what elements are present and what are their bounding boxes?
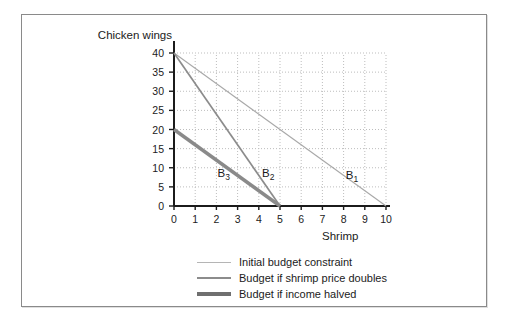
y-tick-label: 25 xyxy=(140,104,164,116)
x-tick-label: 9 xyxy=(355,213,375,225)
x-tick-label: 8 xyxy=(334,213,354,225)
legend-label: Budget if income halved xyxy=(239,288,356,300)
y-tick-label: 0 xyxy=(140,200,164,212)
x-tick-label: 10 xyxy=(376,213,396,225)
y-tick-label: 15 xyxy=(140,143,164,155)
x-axis-title: Shrimp xyxy=(322,230,402,243)
curve-label-subscript: 2 xyxy=(270,172,275,182)
legend-item: Budget if income halved xyxy=(197,287,387,301)
curve-label-b1: B1 xyxy=(346,169,358,181)
x-tick-label: 6 xyxy=(291,213,311,225)
x-tick-label: 4 xyxy=(249,213,269,225)
curve-label-subscript: 1 xyxy=(353,174,358,184)
y-tick-label: 40 xyxy=(140,47,164,59)
figure-frame: Chicken wings Shrimp 0123456789100510152… xyxy=(21,14,487,307)
legend-swatch-line-icon xyxy=(197,277,231,279)
x-tick-label: 5 xyxy=(270,213,290,225)
curve-label-base: B xyxy=(217,167,225,179)
legend-label: Initial budget constraint xyxy=(239,256,352,268)
curve-label-b3: B3 xyxy=(217,167,229,179)
legend-swatch-line-icon xyxy=(197,292,231,296)
legend-label: Budget if shrimp price doubles xyxy=(239,272,387,284)
plot-stage: Chicken wings Shrimp 0123456789100510152… xyxy=(22,15,488,308)
y-tick-label: 10 xyxy=(140,162,164,174)
y-tick-label: 30 xyxy=(140,85,164,97)
x-tick-label: 2 xyxy=(206,213,226,225)
curve-label-subscript: 3 xyxy=(225,172,230,182)
y-axis-title: Chicken wings xyxy=(80,29,172,42)
x-tick-label: 3 xyxy=(228,213,248,225)
y-tick-label: 35 xyxy=(140,66,164,78)
curve-label-b2: B2 xyxy=(262,167,274,179)
y-tick-label: 20 xyxy=(140,124,164,136)
x-tick-label: 7 xyxy=(312,213,332,225)
legend-swatch-line-icon xyxy=(197,262,231,263)
y-tick-label: 5 xyxy=(140,181,164,193)
x-tick-label: 1 xyxy=(185,213,205,225)
x-tick-label: 0 xyxy=(164,213,184,225)
legend-item: Budget if shrimp price doubles xyxy=(197,271,387,285)
curve-label-base: B xyxy=(262,167,270,179)
legend-item: Initial budget constraint xyxy=(197,255,387,269)
chart-legend: Initial budget constraintBudget if shrim… xyxy=(197,255,387,301)
